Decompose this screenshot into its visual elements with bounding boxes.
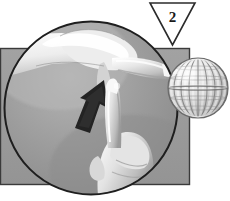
- illustration-canvas: 2: [0, 0, 230, 201]
- contact-highlight: [114, 83, 120, 89]
- striped-sphere: [168, 58, 228, 118]
- step-number-label: 2: [169, 9, 177, 25]
- instructional-step-illustration: 2: [0, 0, 230, 201]
